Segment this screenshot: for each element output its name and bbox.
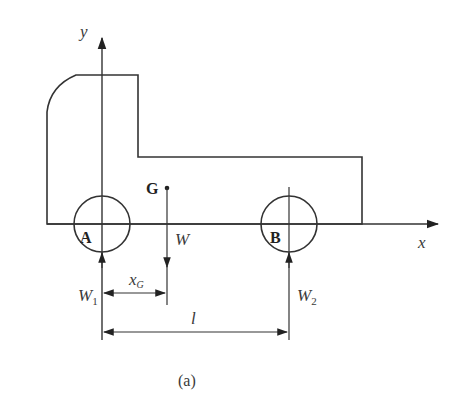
cg-label: G <box>146 180 159 197</box>
wheel-b-label: B <box>270 229 281 246</box>
x-axis-label: x <box>417 233 426 252</box>
y-axis-label: y <box>78 22 88 41</box>
reaction-front-label: W1 <box>78 286 98 307</box>
reaction-rear-sub: 2 <box>311 295 317 307</box>
xg-sub: G <box>137 279 144 290</box>
weight-label: W <box>175 230 191 249</box>
truck-body-outline <box>47 75 362 224</box>
figure-caption: (a) <box>178 372 196 390</box>
xg-label: xG <box>128 270 144 290</box>
reaction-rear-label: W2 <box>297 286 317 307</box>
wheel-a-label: A <box>80 229 92 246</box>
wheelbase-label: l <box>191 309 196 328</box>
truck-free-body-diagram: y x G A B W W1 W2 xG l (a) <box>0 0 464 405</box>
reaction-front-sub: 1 <box>92 295 98 307</box>
